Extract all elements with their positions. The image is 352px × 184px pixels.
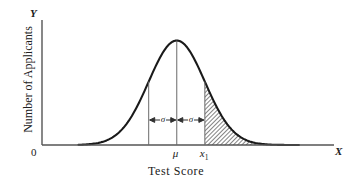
y-axis-title: Number of Applicants — [21, 5, 36, 155]
x1-subscript: 1 — [205, 153, 209, 162]
tick-label-x1: x1 — [200, 148, 209, 162]
normal-distribution-figure: Y X 0 μ x1 σ σ Number of Applicants Test… — [0, 0, 352, 184]
normal-curve — [79, 41, 299, 145]
x-axis-title: Test Score — [0, 164, 352, 179]
shaded-tail-region — [205, 82, 298, 145]
sigma-label-left: σ — [160, 115, 166, 124]
sigma-label-right: σ — [188, 115, 194, 124]
x-axis-letter: X — [335, 146, 342, 157]
tick-label-mu: μ — [173, 148, 179, 159]
